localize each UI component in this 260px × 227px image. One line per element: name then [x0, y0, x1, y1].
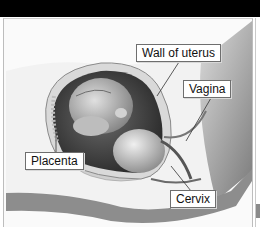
adjacent-panel-edge	[255, 18, 260, 227]
label-vagina: Vagina	[183, 80, 231, 98]
label-wall-of-uterus: Wall of uterus	[136, 44, 221, 62]
label-cervix: Cervix	[170, 190, 216, 208]
label-placenta: Placenta	[25, 152, 84, 170]
header-bar	[0, 0, 260, 17]
